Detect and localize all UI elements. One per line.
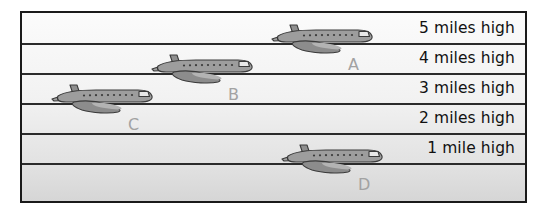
altitude-label-4: 4 miles high	[419, 49, 515, 67]
altitude-diagram: 5 miles high 4 miles high 3 miles high 2…	[20, 11, 527, 203]
plane-group-a: A	[264, 19, 384, 75]
plane-label-a: A	[348, 55, 359, 74]
plane-label-d: D	[358, 175, 370, 194]
airplane-icon	[264, 19, 384, 61]
plane-group-d: D	[274, 139, 394, 195]
airplane-icon	[44, 79, 164, 121]
plane-group-c: C	[44, 79, 164, 135]
altitude-label-5: 5 miles high	[419, 19, 515, 37]
altitude-label-1: 1 mile high	[427, 139, 515, 157]
plane-label-c: C	[128, 115, 139, 134]
altitude-label-2: 2 miles high	[419, 109, 515, 127]
airplane-icon	[274, 139, 394, 181]
plane-label-b: B	[228, 85, 239, 104]
altitude-label-3: 3 miles high	[419, 79, 515, 97]
